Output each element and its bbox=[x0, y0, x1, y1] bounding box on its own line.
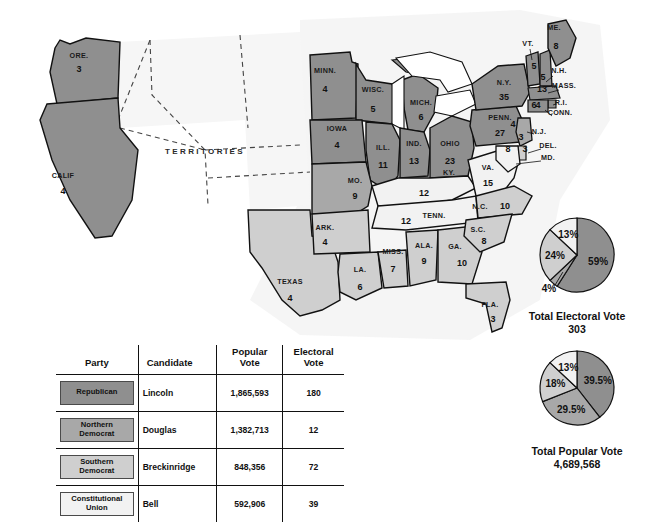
state-abbr-label: IND. bbox=[406, 139, 422, 148]
state-electoral-votes: 4 bbox=[322, 84, 327, 94]
pie-slice-label: 29.5% bbox=[557, 404, 585, 415]
electoral-vote-total: 303 bbox=[512, 323, 642, 335]
state-electoral-votes: 3 bbox=[490, 314, 495, 324]
table-row: ConstitutionalUnionBell592,90639 bbox=[56, 485, 344, 522]
electoral-vote-value: 72 bbox=[283, 448, 344, 485]
state-electoral-votes: 5 bbox=[531, 61, 536, 71]
state-electoral-votes: 35 bbox=[499, 92, 509, 102]
party-label: ConstitutionalUnion bbox=[71, 495, 122, 512]
party-swatch-cell: SouthernDemocrat bbox=[56, 448, 138, 485]
header-electoral-line1: Electoral bbox=[294, 346, 334, 357]
pie-slice-label: 4% bbox=[542, 283, 557, 294]
party-swatch-cell: ConstitutionalUnion bbox=[56, 485, 138, 522]
state-abbr-label: MISS. bbox=[382, 247, 403, 256]
electoral-vote-value: 39 bbox=[283, 485, 344, 522]
state-missouri bbox=[312, 162, 372, 216]
state-electoral-votes: 23 bbox=[445, 156, 455, 166]
state-abbr-label: ALA. bbox=[415, 241, 433, 250]
results-table-wrap: Party Candidate Popular Vote Electoral V… bbox=[56, 345, 344, 483]
state-electoral-votes: 4 bbox=[322, 237, 327, 247]
state-electoral-votes: 12 bbox=[401, 216, 411, 226]
state-electoral-votes: 15 bbox=[483, 178, 493, 188]
state-electoral-votes: 3 bbox=[76, 64, 81, 74]
state-electoral-votes: 5 bbox=[370, 104, 375, 114]
header-popular-line1: Popular bbox=[232, 346, 267, 357]
state-abbr-label: MINN. bbox=[314, 66, 336, 75]
state-electoral-votes: 6 bbox=[357, 282, 362, 292]
results-table-body: RepublicanLincoln1,865,593180NorthernDem… bbox=[56, 374, 344, 522]
popular-vote-value: 1,865,593 bbox=[217, 374, 283, 411]
party-swatch-cell: NorthernDemocrat bbox=[56, 411, 138, 448]
state-electoral-votes: 10 bbox=[457, 258, 467, 268]
header-party: Party bbox=[56, 345, 138, 374]
popular-vote-value: 1,382,713 bbox=[217, 411, 283, 448]
table-row: RepublicanLincoln1,865,593180 bbox=[56, 374, 344, 411]
candidate-name: Breckinridge bbox=[138, 448, 217, 485]
state-abbr-label: CALIF bbox=[52, 171, 75, 180]
state-electoral-votes: 6 bbox=[418, 112, 423, 122]
header-electoral-vote: Electoral Vote bbox=[283, 345, 344, 374]
state-electoral-votes: 27 bbox=[495, 128, 505, 138]
popular-vote-pie-block: 39.5%29.5%18%13% Total Popular Vote 4,68… bbox=[512, 340, 642, 470]
state-electoral-votes: 4 bbox=[510, 119, 515, 129]
state-abbr-label: ORE. bbox=[70, 51, 89, 60]
state-electoral-votes: 9 bbox=[421, 256, 426, 266]
state-electoral-votes: 4 bbox=[287, 293, 292, 303]
state-abbr-label: TENN. bbox=[422, 211, 445, 220]
party-label: Republican bbox=[76, 388, 117, 397]
state-electoral-votes: 5 bbox=[540, 72, 545, 82]
header-popular-vote: Popular Vote bbox=[217, 345, 283, 374]
state-electoral-votes: 12 bbox=[419, 188, 429, 198]
state-abbr-label: ILL. bbox=[376, 143, 390, 152]
state-abbr-label: R.I. bbox=[555, 98, 567, 107]
state-electoral-votes: 9 bbox=[352, 191, 357, 201]
electoral-vote-value: 180 bbox=[283, 374, 344, 411]
party-color-swatch: NorthernDemocrat bbox=[60, 418, 134, 442]
territories-label: TERRITORIES bbox=[165, 147, 245, 156]
state-electoral-votes: 6 bbox=[531, 100, 536, 110]
header-electoral-line2: Vote bbox=[304, 357, 324, 368]
state-abbr-label: MICH. bbox=[410, 98, 432, 107]
state-abbr-label: WISC. bbox=[362, 85, 384, 94]
pie-slice-label: 13% bbox=[558, 229, 578, 240]
state-electoral-votes: 4 bbox=[334, 140, 339, 150]
electoral-vote-value: 12 bbox=[283, 411, 344, 448]
popular-vote-total: 4,689,568 bbox=[512, 458, 642, 470]
state-electoral-votes: 8 bbox=[553, 41, 558, 51]
state-electoral-votes: 8 bbox=[481, 236, 486, 246]
state-minnesota bbox=[310, 52, 358, 120]
state-abbr-label: ARK. bbox=[316, 223, 335, 232]
candidate-name: Lincoln bbox=[138, 374, 217, 411]
table-row: SouthernDemocratBreckinridge848,35672 bbox=[56, 448, 344, 485]
state-electoral-votes: 3 bbox=[522, 144, 527, 154]
candidate-name: Bell bbox=[138, 485, 217, 522]
state-abbr-label: ME. bbox=[547, 23, 561, 32]
state-abbr-label: OHIO bbox=[440, 139, 460, 148]
state-abbr-label: N.H. bbox=[551, 66, 567, 75]
pie-slice-label: 39.5% bbox=[584, 375, 612, 386]
header-popular-line2: Vote bbox=[240, 357, 260, 368]
results-table: Party Candidate Popular Vote Electoral V… bbox=[56, 345, 344, 522]
state-electoral-votes: 13 bbox=[409, 156, 419, 166]
state-abbr-label: GA. bbox=[448, 242, 462, 251]
pie-slice-label: 59% bbox=[588, 256, 608, 267]
state-abbr-label: VT. bbox=[522, 39, 533, 48]
popular-vote-pie-chart: 39.5%29.5%18%13% bbox=[512, 340, 642, 438]
territories-region: TERRITORIES bbox=[118, 32, 310, 210]
state-abbr-label: TEXAS bbox=[277, 277, 302, 286]
state-abbr-label: VA. bbox=[482, 163, 494, 172]
state-arkansas bbox=[312, 210, 370, 254]
header-candidate: Candidate bbox=[138, 345, 217, 374]
candidate-name: Douglas bbox=[138, 411, 217, 448]
state-abbr-label: MD. bbox=[541, 153, 555, 162]
results-table-head: Party Candidate Popular Vote Electoral V… bbox=[56, 345, 344, 374]
state-electoral-votes: 13 bbox=[537, 84, 547, 94]
state-electoral-votes: 3 bbox=[518, 132, 523, 142]
state-abbr-label: KY. bbox=[443, 168, 455, 177]
party-label: NorthernDemocrat bbox=[79, 421, 114, 438]
state-abbr-label: PENN. bbox=[488, 113, 511, 122]
electoral-vote-pie-chart: 59%4%24%13% bbox=[512, 205, 642, 303]
state-abbr-label: LA. bbox=[354, 265, 366, 274]
party-color-swatch: ConstitutionalUnion bbox=[60, 492, 134, 516]
